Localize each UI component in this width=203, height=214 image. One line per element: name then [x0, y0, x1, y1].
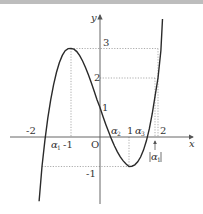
- x-tick-minus-1: -1: [63, 139, 73, 150]
- x-tick-2: 2: [160, 125, 166, 136]
- svg-text:1: 1: [157, 156, 161, 163]
- x-tick-1: 1: [127, 125, 133, 136]
- y-tick-3: 3: [103, 37, 109, 48]
- cubic-curve: [39, 19, 162, 201]
- root-alpha3: α 3: [135, 125, 145, 137]
- origin-label: O: [91, 139, 99, 150]
- y-axis-label: y: [90, 12, 97, 23]
- root-alpha1: α 1: [51, 139, 61, 151]
- cubic-function-graph: y x O 3 2 1 -1 -2 -1 1 2 α 1 α 2 α 3 α 1: [0, 0, 203, 214]
- y-tick-1: 1: [102, 102, 108, 113]
- svg-text:2: 2: [117, 130, 121, 137]
- x-tick-minus-2: -2: [26, 125, 36, 136]
- svg-text:3: 3: [141, 130, 145, 137]
- x-axis-label: x: [189, 138, 195, 149]
- svg-text:1: 1: [57, 144, 61, 151]
- y-tick-minus-1: -1: [86, 168, 96, 179]
- root-alpha2: α 2: [111, 125, 121, 137]
- y-tick-2: 2: [94, 72, 100, 83]
- abs-alpha1-label: α 1: [150, 151, 161, 163]
